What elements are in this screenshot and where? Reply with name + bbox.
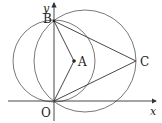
segment-ba [54, 21, 74, 61]
label-a: A [77, 55, 87, 69]
label-c: C [140, 55, 149, 69]
label-o: O [41, 106, 51, 120]
geometry-diagram: y x B A C O [0, 0, 162, 123]
segment-ao [54, 61, 74, 101]
segment-oc [54, 61, 136, 101]
point-b-dot [53, 20, 56, 23]
point-a-dot [72, 59, 76, 63]
x-axis-label: x [150, 105, 157, 118]
segment-bc [54, 21, 136, 61]
label-b: B [43, 12, 52, 26]
